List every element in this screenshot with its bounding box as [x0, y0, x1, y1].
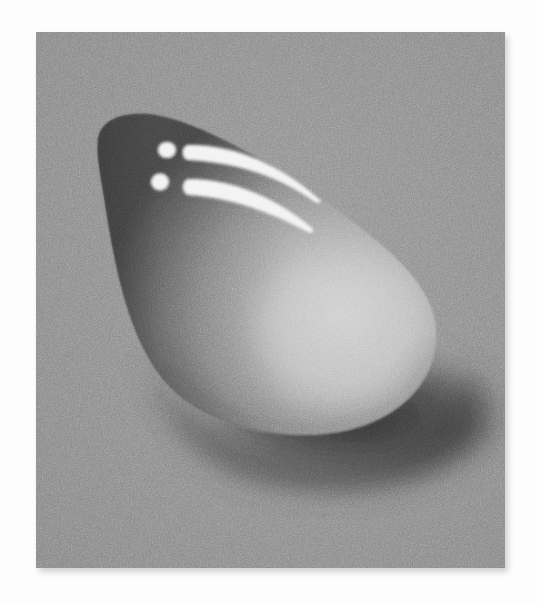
- noise-overlay: [36, 32, 505, 568]
- image-description: A smooth rounded teardrop-shaped stone r…: [0, 0, 1, 1]
- painting-panel: [36, 32, 505, 568]
- page-background: A smooth rounded teardrop-shaped stone r…: [0, 0, 537, 605]
